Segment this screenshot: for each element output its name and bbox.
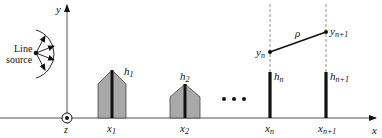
building-2 bbox=[170, 84, 200, 118]
h1-label: h1 bbox=[124, 65, 134, 79]
z-axis-marker bbox=[62, 113, 72, 123]
yn1-label: yn+1 bbox=[329, 25, 348, 39]
hn1-label: hn+1 bbox=[330, 70, 349, 84]
xn-label: xn bbox=[264, 122, 274, 136]
x1-label: x1 bbox=[106, 122, 116, 136]
diffraction-diagram: y x z Line source h1 x1 h2 x2 hn xn bbox=[0, 0, 382, 138]
ellipsis-dots bbox=[222, 97, 246, 101]
y-axis-label: y bbox=[55, 3, 61, 15]
source-point bbox=[34, 51, 39, 56]
x-axis-label: x bbox=[371, 124, 377, 136]
source-label-line1: Line bbox=[14, 43, 33, 54]
line-source bbox=[34, 30, 54, 78]
yn1-point bbox=[324, 30, 328, 34]
yn-label: yn bbox=[255, 46, 265, 60]
source-label-line2: source bbox=[6, 54, 33, 65]
yn-point bbox=[268, 50, 272, 54]
hn-label: hn bbox=[274, 70, 284, 84]
x2-label: x2 bbox=[179, 122, 189, 136]
h2-label: h2 bbox=[180, 70, 190, 84]
building-1 bbox=[98, 70, 126, 118]
xn1-label: xn+1 bbox=[317, 122, 336, 136]
z-axis-label: z bbox=[63, 124, 68, 135]
rho-label: ρ bbox=[294, 27, 300, 39]
